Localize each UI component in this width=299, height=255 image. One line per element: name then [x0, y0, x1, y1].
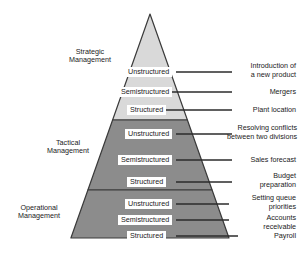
callout-tactical-semistructured-line1: Sales forecast — [228, 156, 296, 165]
callout-operational-semistructured-line2: receivable — [228, 223, 296, 232]
tier-caption-strategic-line2: Management — [60, 56, 120, 64]
callout-strategic-unstructured-line2: a new product — [228, 71, 296, 80]
band-label-tactical-structured: Structured — [127, 177, 166, 187]
tier-caption-strategic: Strategic Management — [60, 48, 120, 65]
band-label-operational-structured: Structured — [127, 231, 166, 241]
callout-strategic-unstructured: Introduction of a new product — [228, 62, 296, 79]
band-label-operational-semistructured: Semistructured — [118, 215, 172, 225]
callout-tactical-unstructured-line2: between two divisions — [220, 133, 297, 142]
band-label-tactical-unstructured: Unstructured — [125, 129, 172, 139]
callout-tactical-semistructured: Sales forecast — [228, 156, 296, 165]
diagram-canvas: Strategic Management Tactical Management… — [0, 0, 299, 255]
callout-strategic-semistructured-line1: Mergers — [228, 88, 296, 97]
callout-operational-structured: Payroll — [228, 232, 296, 241]
band-label-strategic-semistructured: Semistructured — [118, 87, 172, 97]
callout-operational-unstructured: Setting queue priorities — [228, 194, 296, 211]
band-label-tactical-semistructured: Semistructured — [118, 155, 172, 165]
callout-strategic-structured: Plant location — [228, 106, 296, 115]
callout-operational-unstructured-line2: priorities — [228, 203, 296, 212]
callout-operational-semistructured: Accounts receivable — [228, 214, 296, 231]
callout-strategic-semistructured: Mergers — [228, 88, 296, 97]
tier-caption-tactical-line2: Management — [38, 147, 98, 155]
callout-tactical-structured-line2: preparation — [228, 181, 296, 190]
band-label-strategic-structured: Structured — [127, 105, 166, 115]
band-label-strategic-unstructured: Unstructured — [125, 67, 172, 77]
band-label-operational-unstructured: Unstructured — [125, 199, 172, 209]
callout-tactical-unstructured: Resolving conflicts between two division… — [220, 124, 297, 141]
tier-caption-operational: Operational Management — [8, 204, 70, 221]
callout-strategic-structured-line1: Plant location — [228, 106, 296, 115]
callout-operational-structured-line1: Payroll — [228, 232, 296, 241]
callout-tactical-structured: Budget preparation — [228, 172, 296, 189]
tier-caption-operational-line2: Management — [8, 212, 70, 220]
tier-caption-tactical: Tactical Management — [38, 139, 98, 156]
